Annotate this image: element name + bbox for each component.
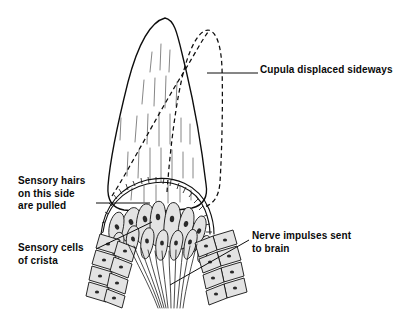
cell-nucleus [98,275,102,278]
cell-nucleus [223,239,227,242]
label-hairs-line2: on this side [18,188,75,199]
cell-nucleus [214,293,218,296]
crista-cupula-diagram: Cupula displaced sideways Sensory hairs … [0,0,405,319]
label-nerve-line2: to brain [252,243,289,254]
label-crista-line2: of crista [18,255,58,266]
cell-nucleus [204,245,208,248]
cell-nucleus [115,282,119,285]
cell-nucleus [160,240,164,245]
cell-nucleus [112,297,116,300]
diagram-figure: Cupula displaced sideways Sensory hairs … [0,0,405,319]
cell-nucleus [119,266,123,269]
label-cupula-displaced: Cupula displaced sideways [260,64,393,75]
cell-nucleus [211,277,215,280]
cell-nucleus [123,250,127,253]
cell-nucleus [102,259,106,262]
label-hairs-line3: are pulled [18,200,66,211]
label-nerve-line1: Nerve impulses sent [252,230,352,241]
label-hairs-line1: Sensory hairs [18,175,86,186]
cell-nucleus [95,291,99,294]
cell-nucleus [227,255,231,258]
label-cupula-line1: Cupula displaced sideways [260,64,393,75]
label-crista-line1: Sensory cells [18,242,84,253]
cell-nucleus [233,287,237,290]
cell-nucleus [230,271,234,274]
